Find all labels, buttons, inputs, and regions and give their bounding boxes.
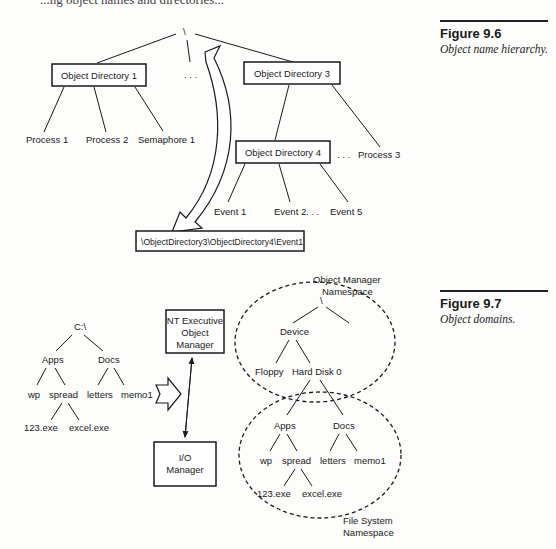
process-1-label: Process 1 <box>26 134 68 145</box>
process-3-label: Process 3 <box>358 149 400 160</box>
fs-123exe: 123.exe <box>257 488 291 499</box>
om-device: Device <box>280 326 309 337</box>
object-directory-3-label: Object Directory 3 <box>254 68 330 79</box>
fs-namespace-label-2: Namespace <box>343 527 394 538</box>
left-apps: Apps <box>42 354 64 365</box>
left-spread: spread <box>49 389 78 400</box>
object-manager-line-3: Manager <box>176 339 214 350</box>
om-floppy: Floppy <box>255 366 284 377</box>
left-memo1: memo1 <box>121 389 153 400</box>
fs-spread: spread <box>282 455 311 466</box>
figure-9-7-title: Figure 9.7 <box>440 296 501 311</box>
figure-9-7-rule <box>440 290 548 292</box>
diagram-canvas: \ . . . Object Directory 1 Process 1 Pro… <box>0 0 556 549</box>
figure-9-6-title: Figure 9.6 <box>440 26 501 41</box>
object-directory-1-label: Object Directory 1 <box>61 70 137 81</box>
fs-letters: letters <box>320 455 346 466</box>
left-123exe: 123.exe <box>24 422 58 433</box>
ellipsis-2: . . . <box>337 149 350 160</box>
left-excelexe: excel.exe <box>69 422 109 433</box>
ellipsis-3: . . . <box>306 206 319 217</box>
object-manager-namespace-ellipse <box>235 282 395 402</box>
fs-docs: Docs <box>333 420 355 431</box>
io-manager-line-2: Manager <box>166 464 204 475</box>
figure-9-7-caption: Object domains. <box>440 313 515 325</box>
event-2-label: Event 2 <box>274 206 306 217</box>
left-tree-root: C:\ <box>74 321 87 332</box>
fs-memo1: memo1 <box>354 455 386 466</box>
om-hard-disk-0: Hard Disk 0 <box>292 366 342 377</box>
om-namespace-label-1: Object Manager <box>313 274 381 285</box>
om-namespace-label-2: Namespace <box>322 286 373 297</box>
figure-9-6-caption: Object name hierarchy. <box>440 43 548 55</box>
left-wp: wp <box>27 389 40 400</box>
object-manager-line-1: NT Executive <box>167 315 223 326</box>
left-docs: Docs <box>98 354 120 365</box>
double-arrow-up <box>185 358 192 437</box>
ellipsis: . . . <box>184 69 197 80</box>
om-root: \ <box>320 295 323 306</box>
figure-9-6-diagram: \ . . . Object Directory 1 Process 1 Pro… <box>26 26 400 251</box>
event-5-label: Event 5 <box>330 206 362 217</box>
fs-wp: wp <box>259 455 272 466</box>
left-letters: letters <box>87 389 113 400</box>
event-1-label: Event 1 <box>214 206 246 217</box>
fs-excelexe: excel.exe <box>302 488 342 499</box>
root-node: \ <box>183 26 186 37</box>
semaphore-1-label: Semaphore 1 <box>138 134 195 145</box>
object-directory-4-label: Object Directory 4 <box>245 147 321 158</box>
figure-9-7-diagram: C:\ Apps Docs wp spread letters memo1 12… <box>24 274 401 538</box>
path-box-label: \ObjectDirectory3\ObjectDirectory4\Event… <box>141 237 303 247</box>
fs-apps: Apps <box>274 420 296 431</box>
figure-9-6-rule <box>440 20 548 22</box>
io-manager-line-1: I/O <box>179 452 192 463</box>
right-arrow-icon <box>156 378 181 410</box>
fs-namespace-label-1: File System <box>343 515 393 526</box>
object-manager-line-2: Object <box>181 327 209 338</box>
process-2-label: Process 2 <box>86 134 128 145</box>
